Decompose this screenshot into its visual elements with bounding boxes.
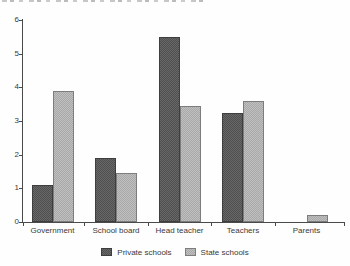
bar-state-schools-teachers (243, 101, 264, 222)
y-axis (22, 19, 23, 223)
legend-swatch-state-schools-icon (185, 248, 196, 256)
y-tick-label: 2 (4, 150, 19, 160)
y-axis-tick (19, 222, 22, 223)
y-axis-tick (19, 188, 22, 189)
bar-private-schools-head-teacher (159, 37, 180, 222)
bar-state-schools-parents (307, 215, 328, 222)
y-tick-label: 5 (4, 49, 19, 59)
y-axis-tick (19, 54, 22, 55)
legend-label-state-schools: State schools (201, 248, 249, 257)
grouped-bar-chart: 0123456GovernmentSchool boardHead teache… (0, 0, 350, 266)
bar-state-schools-head-teacher (180, 106, 201, 222)
y-axis-tick (19, 87, 22, 88)
y-tick-label: 0 (4, 217, 19, 227)
bar-private-schools-school-board (95, 158, 116, 222)
x-category-label-school-board: School board (84, 226, 148, 235)
y-axis-tick (19, 20, 22, 21)
bar-state-schools-school-board (116, 173, 137, 222)
x-category-label-parents: Parents (275, 226, 339, 235)
bar-state-schools-government (53, 91, 74, 222)
y-tick-label: 3 (4, 116, 19, 126)
x-category-label-head-teacher: Head teacher (148, 226, 212, 235)
legend-entry-state-schools: State schools (185, 248, 249, 257)
x-category-label-government: Government (21, 226, 85, 235)
legend-swatch-private-schools-icon (101, 248, 112, 256)
y-axis-tick (19, 121, 22, 122)
x-axis-tick (344, 223, 345, 226)
bar-private-schools-teachers (222, 113, 243, 222)
bar-private-schools-government (32, 185, 53, 222)
y-tick-label: 6 (4, 15, 19, 25)
y-axis-tick (19, 155, 22, 156)
legend: Private schools State schools (0, 245, 350, 259)
x-axis (22, 222, 345, 223)
legend-label-private-schools: Private schools (117, 248, 171, 257)
legend-entry-private-schools: Private schools (101, 248, 171, 257)
y-tick-label: 1 (4, 183, 19, 193)
y-tick-label: 4 (4, 82, 19, 92)
x-category-label-teachers: Teachers (211, 226, 275, 235)
plot-area: 0123456GovernmentSchool boardHead teache… (0, 0, 350, 266)
screenshot-root: 0123456GovernmentSchool boardHead teache… (0, 0, 350, 266)
